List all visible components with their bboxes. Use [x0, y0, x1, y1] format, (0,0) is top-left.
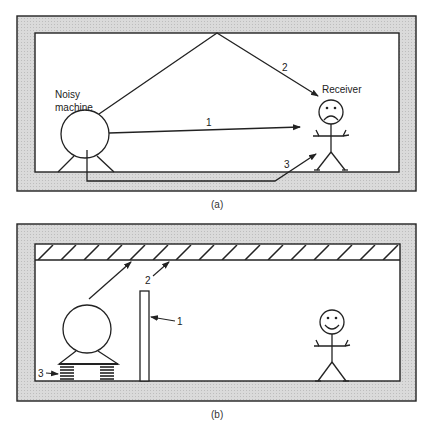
noisy-machine-a	[58, 110, 114, 172]
happy-receiver-icon	[314, 310, 350, 381]
source-label-line1: Noisy	[55, 89, 80, 100]
caption-b: (b)	[211, 409, 223, 420]
sound-path-to-ceiling	[89, 262, 131, 299]
treatment-1-arrow	[151, 317, 175, 321]
sad-receiver-icon	[313, 100, 349, 170]
barrier	[140, 291, 149, 381]
path-1-arrow	[109, 127, 300, 133]
source-label-line2: machine	[55, 102, 93, 113]
path-2-label: 2	[282, 62, 288, 73]
caption-a: (a)	[211, 199, 223, 210]
absorptive-ceiling	[35, 245, 400, 260]
figure-b: 3 2 1 (b)	[17, 224, 416, 420]
noisy-machine-b	[59, 305, 118, 364]
noise-path-diagram: Noisy machine 1 2 3 Receiver (a)	[0, 0, 438, 428]
path-1-label: 1	[206, 117, 212, 128]
path-2-arrow	[99, 33, 318, 114]
spring-isolators	[60, 367, 114, 379]
receiver-label: Receiver	[322, 84, 362, 95]
treatment-3-label: 3	[38, 368, 44, 379]
path-3-label: 3	[284, 159, 290, 170]
treatment-1-label: 1	[177, 316, 183, 327]
treatment-2-label: 2	[145, 275, 151, 286]
figure-a: Noisy machine 1 2 3 Receiver (a)	[17, 16, 416, 210]
treatment-3-arrow	[46, 373, 58, 374]
treatment-2-arrow	[153, 262, 169, 276]
